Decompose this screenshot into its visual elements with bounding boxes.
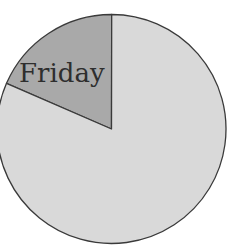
pie-slices <box>0 15 226 244</box>
slice-label-friday: Friday <box>19 58 105 88</box>
pie-chart: Friday <box>0 0 229 252</box>
